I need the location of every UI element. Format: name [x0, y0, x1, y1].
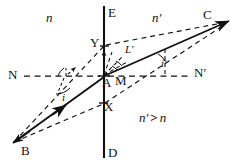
label-normal-left-N: N: [8, 68, 17, 81]
relation-left-term: n′: [139, 110, 148, 125]
refraction-diagram: E D N N′ B C Y A M X n n′ i L′ i′ n′>n: [0, 0, 232, 165]
label-point-X: X: [104, 100, 113, 113]
label-interface-top-E: E: [108, 6, 116, 19]
label-angle-incidence-lower: i: [62, 92, 65, 103]
label-angle-refraction-lower: i′: [161, 58, 166, 69]
label-angle-refraction-upper: L′: [125, 44, 134, 55]
refracted-ray: [104, 21, 229, 76]
label-point-M: M: [115, 74, 127, 87]
relation-right-term: n: [160, 110, 167, 125]
label-normal-right-N-prime: N′: [194, 66, 206, 79]
label-index-n: n: [46, 11, 53, 24]
label-point-B: B: [21, 144, 30, 157]
label-point-C: C: [203, 8, 212, 21]
label-point-A: A: [102, 76, 111, 89]
label-index-n-prime: n′: [152, 11, 161, 24]
angle-mark-incidence-upper: [58, 67, 76, 76]
relation-operator: >: [148, 110, 159, 125]
label-point-Y: Y: [90, 36, 99, 49]
label-interface-bottom-D: D: [108, 146, 117, 159]
label-index-relation: n′>n: [139, 111, 166, 124]
